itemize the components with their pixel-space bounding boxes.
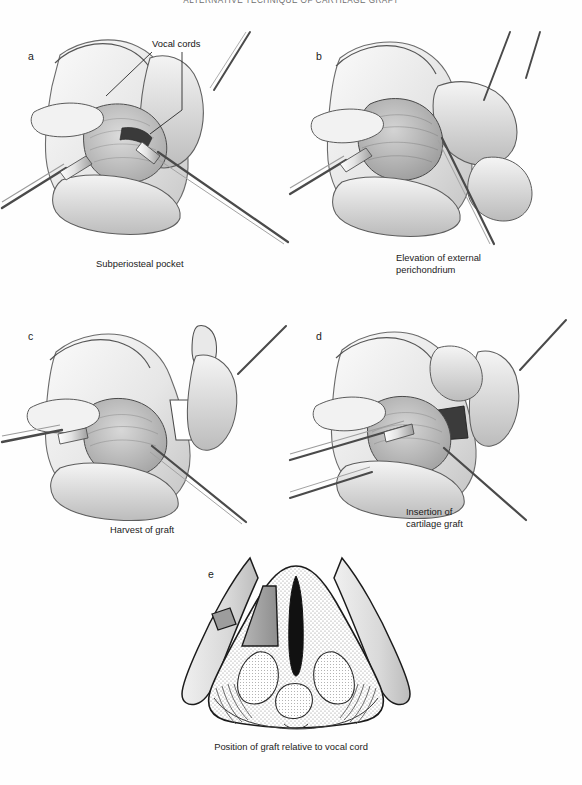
panel-letter-b: b	[316, 50, 322, 62]
panel-a: a Vocal cords	[0, 30, 290, 245]
panel-c-caption: Harvest of graft	[110, 524, 290, 536]
panel-a-illustration	[0, 30, 290, 245]
panel-c: c	[0, 312, 290, 524]
panel-c-illustration	[0, 312, 290, 524]
panel-e-caption: Position of graft relative to vocal cord	[91, 741, 491, 753]
retractor-instrument	[210, 32, 250, 90]
panel-letter-c: c	[28, 330, 33, 342]
panel-d: d	[288, 312, 582, 524]
retractor-instrument	[238, 326, 286, 374]
panel-a-caption: Subperiosteal pocket	[96, 258, 296, 270]
panel-b-caption: Elevation of external perichondrium	[396, 252, 576, 275]
panel-d-caption: Insertion of cartilage graft	[406, 506, 576, 529]
panel-e-illustration	[146, 552, 446, 732]
panel-b: b	[288, 30, 582, 245]
panel-letter-e: e	[208, 568, 214, 580]
upper-shaft-instrument	[520, 320, 566, 370]
vocal-cords-label: Vocal cords	[152, 38, 200, 49]
panel-letter-d: d	[316, 330, 322, 342]
panel-b-illustration	[288, 30, 582, 245]
panel-letter-a: a	[28, 50, 34, 62]
figure-page: ALTERNATIVE TECHNIQUE OF CARTILAGE GRAFT	[0, 0, 582, 785]
panel-e: e	[146, 552, 446, 732]
thyroid-ala-wing	[187, 355, 236, 450]
running-header: ALTERNATIVE TECHNIQUE OF CARTILAGE GRAFT	[0, 0, 582, 6]
panel-d-illustration	[288, 312, 582, 524]
